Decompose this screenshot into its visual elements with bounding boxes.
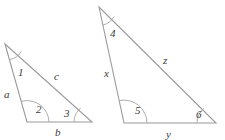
right-triangle: [99, 7, 216, 123]
right-angle-5-label: 5: [135, 104, 141, 116]
diagram-canvas: 1 2 3 a b c 4 5 6 x y z: [0, 0, 225, 140]
left-angle-1-arc: [10, 51, 22, 59]
right-side-z-label: z: [162, 54, 168, 66]
left-side-b-label: b: [55, 126, 61, 138]
right-side-y-label: y: [165, 128, 171, 140]
right-side-x-label: x: [103, 67, 109, 79]
left-angle-2-label: 2: [36, 103, 42, 115]
right-triangle-outline: [99, 7, 216, 123]
right-angle-6-label: 6: [196, 108, 202, 120]
left-side-c-label: c: [54, 70, 59, 82]
left-angle-1-label: 1: [18, 66, 24, 78]
triangles-figure: 1 2 3 a b c 4 5 6 x y z: [0, 0, 225, 140]
right-angle-4-label: 4: [110, 27, 116, 39]
left-angle-3-label: 3: [63, 107, 70, 119]
left-triangle: [5, 44, 92, 122]
left-side-a-label: a: [4, 88, 10, 100]
right-angle-5-arc: [120, 100, 147, 123]
left-angle-3-arc: [74, 108, 81, 122]
